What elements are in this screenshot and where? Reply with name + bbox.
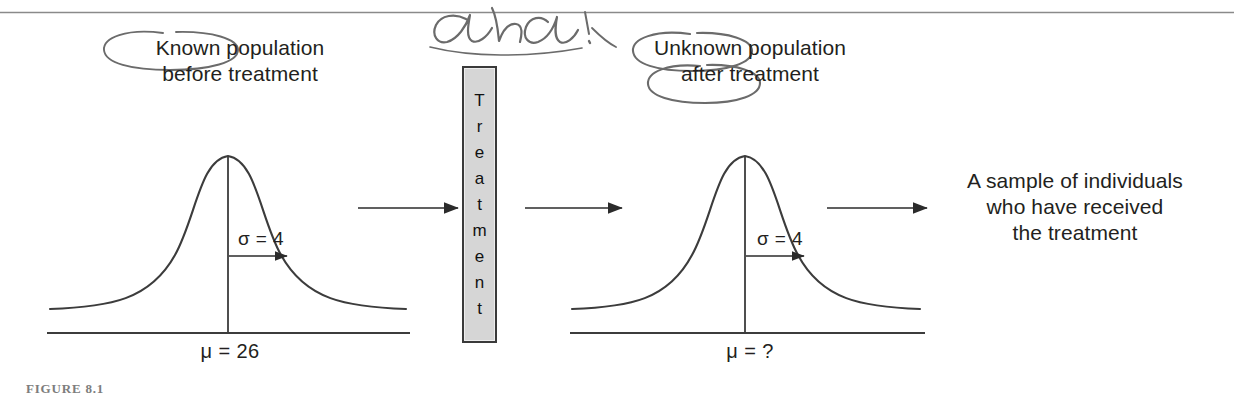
treatment-letter-1: r [477, 114, 483, 140]
figure-number-caption: FIGURE 8.1 [26, 381, 104, 397]
left-distribution [47, 156, 410, 333]
right-normal-curve [572, 156, 920, 309]
right-panel-caption: Unknown population after treatment [600, 35, 900, 87]
treatment-letter-5: m [472, 218, 486, 244]
left-sigma-label: σ = 4 [238, 228, 284, 250]
right-distribution [570, 156, 925, 333]
left-panel-caption: Known population before treatment [95, 35, 385, 87]
treatment-letter-0: T [474, 88, 484, 114]
right-mean-label: μ = ? [670, 340, 830, 363]
treatment-letter-2: e [475, 140, 484, 166]
treatment-letter-4: t [477, 192, 482, 218]
treatment-letter-7: n [475, 270, 484, 296]
treatment-letter-3: a [475, 166, 484, 192]
treatment-box: Treatment [462, 66, 497, 343]
right-sigma-label: σ = 4 [757, 228, 803, 250]
treatment-letter-6: e [475, 244, 484, 270]
left-mean-label: μ = 26 [150, 340, 310, 363]
ah-ha-handwriting [430, 8, 590, 55]
treatment-letter-8: t [477, 296, 482, 322]
sample-caption: A sample of individuals who have receive… [930, 168, 1220, 246]
figure-container: Known population before treatment Unknow… [0, 0, 1234, 398]
treatment-box-label: Treatment [464, 68, 495, 341]
